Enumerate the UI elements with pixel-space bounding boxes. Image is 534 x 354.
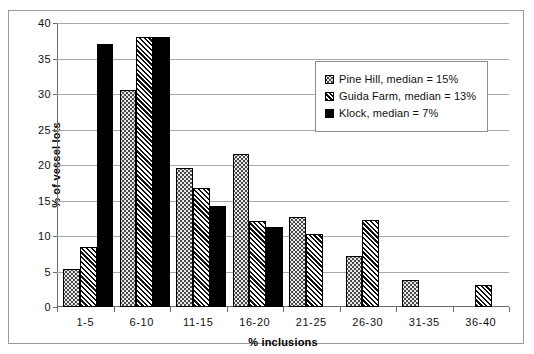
y-tick-mark	[53, 236, 57, 237]
y-tick-label: 30	[38, 88, 51, 100]
y-tick-label: 15	[38, 195, 51, 207]
bar-guida	[362, 220, 379, 307]
x-tick-label: 6-10	[130, 316, 154, 328]
x-tick-mark	[283, 307, 284, 312]
y-tick-mark	[53, 201, 57, 202]
chart-frame: % of vessel lots 05101520253035401-56-10…	[8, 10, 524, 344]
legend-swatch-pine-hill-icon	[325, 75, 334, 84]
bar-group	[176, 23, 227, 307]
bar-pine	[233, 154, 250, 307]
bar-klock	[210, 206, 227, 307]
bar-guida	[136, 37, 153, 307]
x-tick-label: 36-40	[465, 316, 496, 328]
bar-group	[120, 23, 171, 307]
bar-guida	[306, 234, 323, 307]
y-tick-mark	[53, 272, 57, 273]
bar-pine	[289, 217, 306, 307]
x-tick-label: 11-15	[183, 316, 213, 328]
y-tick-label: 0	[44, 301, 51, 313]
y-tick-label: 35	[38, 53, 51, 65]
y-tick-label: 20	[38, 159, 51, 171]
y-tick-mark	[53, 94, 57, 95]
legend-swatch-guida-farm-icon	[325, 92, 334, 101]
legend-label-klock: Klock, median = 7%	[339, 107, 438, 119]
x-tick-mark	[453, 307, 454, 312]
bar-group	[233, 23, 284, 307]
bar-pine	[402, 280, 419, 307]
bar-pine	[176, 168, 193, 307]
x-tick-mark	[227, 307, 228, 312]
x-tick-label: 26-30	[352, 316, 383, 328]
y-tick-mark	[53, 165, 57, 166]
x-tick-label: 1-5	[76, 316, 94, 328]
legend-item-pine-hill: Pine Hill, median = 15%	[325, 73, 476, 85]
bar-pine	[346, 256, 363, 307]
bar-guida	[193, 188, 210, 307]
bar-pine	[63, 269, 80, 307]
bar-guida	[80, 247, 97, 307]
y-tick-label: 25	[38, 124, 51, 136]
y-tick-mark	[53, 130, 57, 131]
bar-klock	[153, 37, 170, 308]
x-tick-mark	[170, 307, 171, 312]
bar-pine	[120, 90, 137, 307]
x-tick-label: 21-25	[296, 316, 327, 328]
y-tick-label: 5	[44, 266, 51, 278]
x-tick-mark	[114, 307, 115, 312]
x-tick-label: 31-35	[409, 316, 440, 328]
x-tick-label: 16-20	[239, 316, 270, 328]
legend-swatch-klock-icon	[325, 109, 334, 118]
legend-item-guida-farm: Guida Farm, median = 13%	[325, 90, 476, 102]
chart-legend: Pine Hill, median = 15% Guida Farm, medi…	[315, 61, 488, 132]
legend-label-guida-farm: Guida Farm, median = 13%	[339, 90, 476, 102]
legend-item-klock: Klock, median = 7%	[325, 107, 476, 119]
x-tick-mark	[509, 307, 510, 312]
bar-group	[63, 23, 114, 307]
y-tick-label: 40	[38, 17, 51, 29]
bar-klock	[97, 44, 114, 307]
bar-guida	[249, 221, 266, 307]
y-tick-mark	[53, 59, 57, 60]
x-tick-mark	[57, 307, 58, 312]
bar-guida	[475, 285, 492, 307]
x-tick-mark	[340, 307, 341, 312]
y-tick-label: 10	[38, 230, 51, 242]
legend-label-pine-hill: Pine Hill, median = 15%	[339, 73, 458, 85]
bar-klock	[266, 227, 283, 307]
x-tick-mark	[396, 307, 397, 312]
y-tick-mark	[53, 23, 57, 24]
x-axis-title: % inclusions	[57, 336, 509, 348]
